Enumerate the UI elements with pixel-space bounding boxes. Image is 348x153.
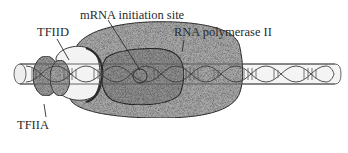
diagram-canvas: mRNA initiation site TFIID RNA polymeras…: [0, 0, 348, 153]
label-tfiid: TFIID: [37, 26, 69, 39]
label-mrna-initiation-site: mRNA initiation site: [80, 9, 184, 22]
label-tfiia: TFIIA: [17, 119, 49, 132]
label-rna-polymerase-ii: RNA polymerase II: [174, 26, 272, 39]
transcription-complex-illustration: [0, 0, 348, 153]
